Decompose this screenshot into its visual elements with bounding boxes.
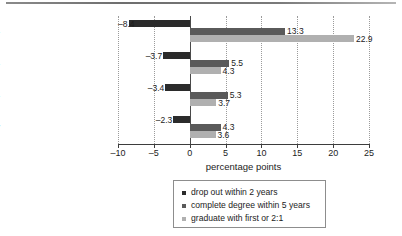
x-axis-title: percentage points xyxy=(118,161,369,172)
legend-label: complete degree within 5 years xyxy=(191,201,310,210)
x-tick-label: 25 xyxy=(349,149,389,158)
legend-label: drop out within 2 years xyxy=(191,188,277,197)
bar-group: –8.413.322.9 xyxy=(118,20,369,44)
bar xyxy=(190,124,221,131)
legend-label: graduate with first or 2:1 xyxy=(191,214,283,223)
bar xyxy=(165,84,189,91)
bar xyxy=(190,131,216,138)
x-tick-label: 20 xyxy=(313,149,353,158)
bar xyxy=(190,35,354,42)
plot-area: –8.413.322.9–3.75.54.3–3.45.33.7–2.34.33… xyxy=(118,16,369,144)
bar xyxy=(173,116,189,123)
bar-group: –3.75.54.3 xyxy=(118,52,369,76)
legend-swatch-icon xyxy=(182,191,186,195)
x-tick-label: 5 xyxy=(206,149,246,158)
bar-value-label: 5.3 xyxy=(230,91,242,100)
bar-value-label: –3.7 xyxy=(118,52,162,61)
bar-value-label: 4.3 xyxy=(223,67,235,76)
x-tick-label: 0 xyxy=(170,149,210,158)
bar-value-label: 3.7 xyxy=(218,99,230,108)
legend-swatch-icon xyxy=(182,217,186,221)
bar-value-label: 3.6 xyxy=(218,131,230,140)
bar-value-label: 22.9 xyxy=(356,35,373,44)
x-tick-label: 15 xyxy=(277,149,317,158)
bar xyxy=(129,20,189,27)
legend-item: drop out within 2 years xyxy=(182,186,325,199)
bar-group: –3.45.33.7 xyxy=(118,84,369,108)
bar-group: –2.34.33.6 xyxy=(118,116,369,140)
x-axis-line xyxy=(118,144,369,145)
legend-item: complete degree within 5 years xyxy=(182,199,325,212)
bar xyxy=(190,28,285,35)
bar xyxy=(190,99,217,106)
legend-swatch-icon xyxy=(182,204,186,208)
chart-legend: drop out within 2 yearscomplete degree w… xyxy=(173,180,326,228)
bar xyxy=(190,67,221,74)
bar-value-label: –3.4 xyxy=(118,84,164,93)
bar-value-label: –8.4 xyxy=(118,20,128,29)
legend-item: graduate with first or 2:1 xyxy=(182,212,325,225)
x-tick-label: 10 xyxy=(241,149,281,158)
bar-value-label: –2.3 xyxy=(118,116,172,125)
x-tick-label: –5 xyxy=(134,149,174,158)
x-tick-label: –10 xyxy=(98,149,138,158)
bar xyxy=(163,52,190,59)
